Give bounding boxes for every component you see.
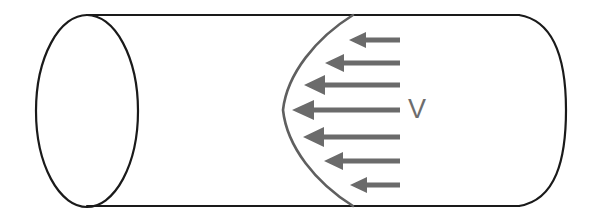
velocity-arrow — [349, 32, 400, 48]
velocity-profile-figure: V — [0, 0, 591, 218]
velocity-arrow — [304, 75, 400, 95]
velocity-arrow — [303, 127, 400, 147]
velocity-arrow — [350, 177, 400, 193]
velocity-label: V — [408, 96, 426, 123]
figure-canvas — [0, 0, 591, 218]
velocity-arrow — [292, 100, 400, 120]
velocity-arrow — [325, 54, 400, 72]
velocity-arrow — [324, 152, 400, 170]
pipe-right-end-arc — [519, 15, 566, 206]
pipe-left-face-ellipse — [36, 15, 138, 207]
